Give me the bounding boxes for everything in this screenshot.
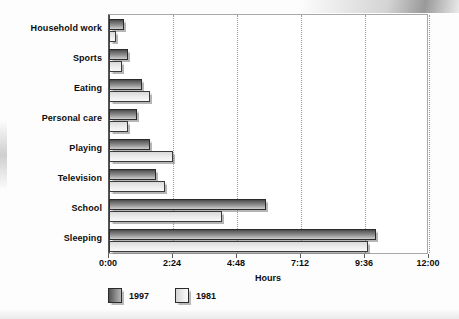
bar-1997-personal-care — [109, 109, 137, 120]
legend-item-1981: 1981 — [175, 288, 216, 303]
bar-1997-sleeping — [109, 229, 376, 240]
gridline-9:36 — [365, 15, 366, 253]
bar-1981-household-work — [109, 31, 116, 42]
category-label-playing: Playing — [0, 143, 102, 153]
bar-1981-sports — [109, 61, 122, 72]
legend-label-1997: 1997 — [129, 291, 149, 301]
plot-inner — [109, 15, 427, 253]
bar-1997-sports — [109, 49, 128, 60]
x-tick-label-7:12: 7:12 — [291, 258, 309, 268]
bar-1997-playing — [109, 139, 150, 150]
legend-swatch-1981 — [175, 288, 189, 303]
bar-1981-personal-care — [109, 121, 128, 132]
legend-label-1981: 1981 — [196, 291, 216, 301]
x-tick-label-9:36: 9:36 — [355, 258, 373, 268]
category-label-eating: Eating — [0, 83, 102, 93]
bar-1981-eating — [109, 91, 150, 102]
category-label-personal-care: Personal care — [0, 113, 102, 123]
bar-1997-school — [109, 199, 266, 210]
plot-area — [108, 14, 428, 254]
bar-1997-eating — [109, 79, 142, 90]
legend-swatch-1997 — [108, 288, 122, 303]
bar-1981-television — [109, 181, 165, 192]
category-label-television: Television — [0, 173, 102, 183]
bar-1981-school — [109, 211, 222, 222]
category-label-household-work: Household work — [0, 23, 102, 33]
category-label-sleeping: Sleeping — [0, 233, 102, 243]
chart-legend: 1997 1981 — [108, 288, 216, 303]
gridline-4:48 — [237, 15, 238, 253]
category-label-school: School — [0, 203, 102, 213]
legend-item-1997: 1997 — [108, 288, 149, 303]
x-tick-label-2:24: 2:24 — [163, 258, 181, 268]
x-axis-title: Hours — [108, 273, 428, 283]
bar-1981-playing — [109, 151, 173, 162]
bar-chart-figure: Household workSportsEatingPersonal careP… — [0, 0, 459, 319]
bar-1997-television — [109, 169, 156, 180]
bar-1997-household-work — [109, 19, 124, 30]
gridline-12:00 — [429, 15, 430, 253]
category-label-sports: Sports — [0, 53, 102, 63]
x-tick-label-12:00: 12:00 — [416, 258, 439, 268]
gridline-7:12 — [301, 15, 302, 253]
x-tick-label-4:48: 4:48 — [227, 258, 245, 268]
bar-1981-sleeping — [109, 241, 368, 252]
x-tick-label-0:00: 0:00 — [99, 258, 117, 268]
